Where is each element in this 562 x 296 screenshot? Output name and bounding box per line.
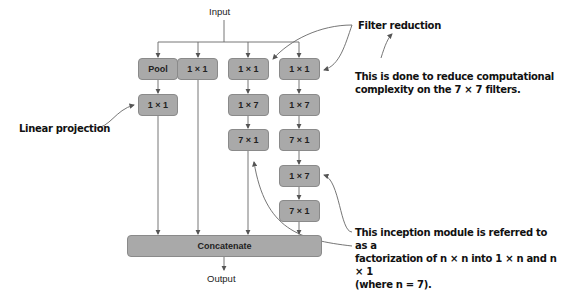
conv-1x1-box: 1 × 1 [138,94,178,116]
input-label: Input [209,6,230,17]
conv-7x1-box: 7 × 1 [279,200,320,222]
linear-projection-label: Linear projection [19,122,110,135]
conv-1x1-box: 1 × 1 [177,58,218,80]
conv-7x1-box: 7 × 1 [279,129,320,151]
pool-box: Pool [138,58,178,80]
conv-1x1-box: 1 × 1 [279,58,320,80]
conv-7x1-box: 7 × 1 [228,129,269,151]
output-label: Output [207,273,236,284]
conv-1x7-box: 1 × 7 [279,165,320,187]
filter-reduction-note: This is done to reduce computational com… [355,70,554,96]
factorization-note: This inception module is referred to as … [355,226,562,291]
filter-reduction-label: Filter reduction [358,19,441,32]
conv-1x7-box: 1 × 7 [279,94,320,116]
conv-1x7-box: 1 × 7 [228,94,269,116]
concatenate-box: Concatenate [127,235,322,257]
conv-1x1-box: 1 × 1 [228,58,269,80]
